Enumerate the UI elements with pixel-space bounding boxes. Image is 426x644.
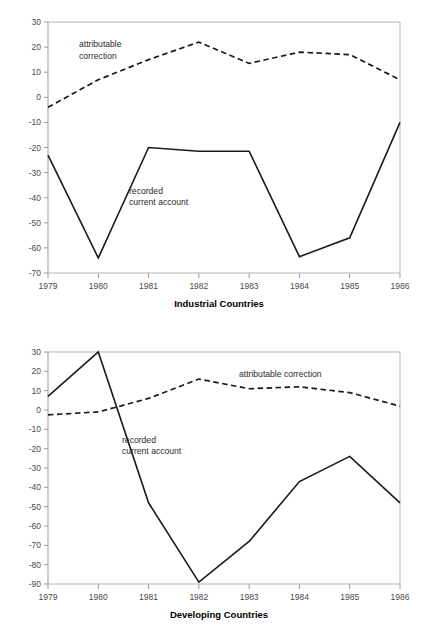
y-tick-label: -60 — [29, 521, 42, 531]
annotation-recorded-current-account-developing-line1: recorded — [122, 435, 156, 445]
series-line-solid — [48, 352, 400, 582]
x-tick-label: 1983 — [240, 592, 259, 602]
x-axis-ticks-developing: 19791980198119821983198419851986 — [39, 584, 410, 602]
annotation-attributable-correction-line2: correction — [79, 51, 117, 61]
series-group-developing — [48, 352, 400, 582]
y-tick-label: -10 — [29, 117, 42, 127]
y-tick-label: -20 — [29, 143, 42, 153]
y-tick-label: -30 — [29, 463, 42, 473]
x-tick-label: 1986 — [391, 281, 410, 291]
y-tick-label: -50 — [29, 502, 42, 512]
x-tick-label: 1981 — [139, 281, 158, 291]
x-axis-ticks-industrial: 19791980198119821983198419851986 — [39, 273, 410, 291]
x-tick-label: 1982 — [189, 281, 208, 291]
annotation-recorded-current-account-line2: current account — [129, 197, 189, 207]
y-tick-label: -90 — [29, 579, 42, 589]
y-tick-label: 10 — [32, 386, 42, 396]
y-axis-ticks-industrial: 3020100-10-20-30-40-50-60-70 — [29, 17, 48, 278]
x-tick-label: 1981 — [139, 592, 158, 602]
caption-developing-countries: Developing Countries — [170, 609, 268, 620]
y-tick-label: 0 — [36, 92, 41, 102]
y-tick-label: 10 — [32, 67, 42, 77]
annotation-recorded-current-account-developing-line2: current account — [122, 446, 182, 456]
series-line-dashed — [48, 379, 400, 415]
x-tick-label: 1984 — [290, 281, 309, 291]
x-tick-label: 1980 — [89, 592, 108, 602]
annotation-attributable-correction-developing: attributable correction — [239, 369, 322, 379]
annotation-attributable-correction-line1: attributable — [79, 39, 122, 49]
chart-developing-countries: 3020100-10-20-30-40-50-60-70-80-90 19791… — [0, 330, 426, 644]
x-tick-label: 1979 — [39, 592, 58, 602]
y-tick-label: -70 — [29, 268, 42, 278]
series-group-industrial — [48, 42, 400, 258]
y-tick-label: -10 — [29, 424, 42, 434]
plot-frame-developing — [48, 352, 400, 584]
y-tick-label: -20 — [29, 444, 42, 454]
x-tick-label: 1985 — [340, 281, 359, 291]
y-tick-label: 0 — [36, 405, 41, 415]
y-axis-ticks-developing: 3020100-10-20-30-40-50-60-70-80-90 — [29, 347, 48, 589]
x-tick-label: 1980 — [89, 281, 108, 291]
x-tick-label: 1984 — [290, 592, 309, 602]
y-tick-label: -40 — [29, 482, 42, 492]
x-tick-label: 1982 — [189, 592, 208, 602]
y-tick-label: -60 — [29, 243, 42, 253]
y-tick-label: -30 — [29, 168, 42, 178]
x-tick-label: 1986 — [391, 592, 410, 602]
chart-svg-developing: 3020100-10-20-30-40-50-60-70-80-90 19791… — [0, 330, 426, 644]
annotation-recorded-current-account-line1: recorded — [129, 186, 163, 196]
caption-industrial-countries: Industrial Countries — [174, 298, 264, 309]
y-tick-label: 20 — [32, 42, 42, 52]
figure-page: 3020100-10-20-30-40-50-60-70 19791980198… — [0, 0, 426, 644]
x-tick-label: 1985 — [340, 592, 359, 602]
series-line-solid — [48, 122, 400, 258]
y-tick-label: 30 — [32, 17, 42, 27]
chart-svg-industrial: 3020100-10-20-30-40-50-60-70 19791980198… — [0, 0, 426, 318]
x-tick-label: 1979 — [39, 281, 58, 291]
y-tick-label: 20 — [32, 366, 42, 376]
y-tick-label: -40 — [29, 193, 42, 203]
x-tick-label: 1983 — [240, 281, 259, 291]
y-tick-label: -80 — [29, 560, 42, 570]
y-tick-label: -70 — [29, 540, 42, 550]
y-tick-label: -50 — [29, 218, 42, 228]
chart-industrial-countries: 3020100-10-20-30-40-50-60-70 19791980198… — [0, 0, 426, 318]
y-tick-label: 30 — [32, 347, 42, 357]
